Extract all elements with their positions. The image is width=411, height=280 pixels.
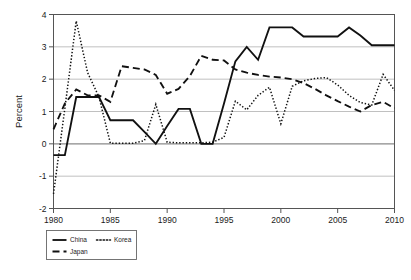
x-tick-label-2010: 2010 bbox=[385, 215, 404, 225]
x-axis-tick-labels: 1980198519901995200020052010 bbox=[44, 215, 404, 225]
series-line-japan bbox=[54, 56, 395, 129]
legend-label-korea: Korea bbox=[114, 236, 132, 243]
y-tick-label-0: 0 bbox=[42, 139, 47, 149]
x-tick-label-1990: 1990 bbox=[158, 215, 177, 225]
x-tick-label-1980: 1980 bbox=[44, 215, 63, 225]
x-tick-label-2005: 2005 bbox=[328, 215, 347, 225]
gridlines-group bbox=[54, 47, 395, 176]
y-axis-title: Percent bbox=[13, 95, 24, 128]
y-tick-label-2: 2 bbox=[42, 74, 47, 84]
legend-label-japan: Japan bbox=[70, 248, 88, 256]
y-tick-label-4: 4 bbox=[42, 10, 47, 20]
y-tick-label-1: 1 bbox=[42, 107, 47, 117]
y-tick-label--2: -2 bbox=[39, 204, 47, 214]
chart-figure: 1980198519901995200020052010 -2-101234 P… bbox=[0, 0, 411, 280]
x-tick-label-1995: 1995 bbox=[215, 215, 234, 225]
y-tick-label--1: -1 bbox=[39, 171, 47, 181]
chart-legend: ChinaKoreaJapan bbox=[47, 231, 137, 260]
legend-label-china: China bbox=[70, 236, 87, 243]
legend-box bbox=[47, 231, 137, 260]
y-tick-label-3: 3 bbox=[42, 42, 47, 52]
y-axis-tick-labels: -2-101234 bbox=[39, 10, 47, 214]
x-axis-ticks bbox=[54, 209, 395, 214]
y-axis-ticks bbox=[49, 15, 54, 209]
x-tick-label-2000: 2000 bbox=[271, 215, 290, 225]
line-chart: 1980198519901995200020052010 -2-101234 P… bbox=[0, 0, 411, 280]
x-tick-label-1985: 1985 bbox=[101, 215, 120, 225]
